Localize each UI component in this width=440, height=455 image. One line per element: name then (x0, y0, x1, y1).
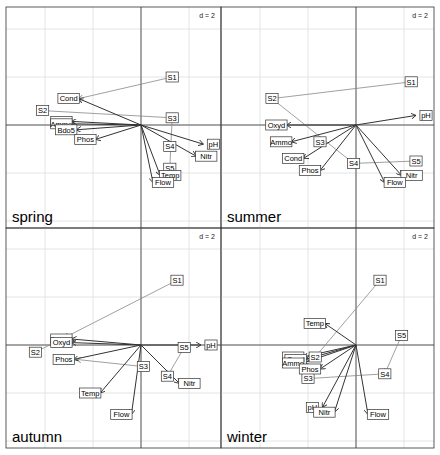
biplot-figure: S1S2S3S4S5CondOxydAmmoBdo5PhospHNitrTemp… (0, 0, 440, 455)
panel-spring: S1S2S3S4S5CondOxydAmmoBdo5PhospHNitrTemp… (6, 7, 221, 228)
variable-label-phos: Phos (55, 355, 72, 364)
site-arrows (308, 280, 402, 378)
variable-label-flow: Flow (370, 410, 386, 419)
site-label-s3: S3 (303, 374, 312, 383)
grid-lines (6, 7, 221, 228)
variable-label-temp: Temp (306, 319, 324, 328)
variable-label-nitr: Nitr (200, 152, 212, 161)
site-label-s4: S4 (163, 372, 172, 381)
variable-label-cond: Cond (60, 94, 78, 103)
season-label: spring (12, 208, 53, 225)
site-label-s2: S2 (311, 353, 320, 362)
site-label-s2: S2 (38, 106, 47, 115)
site-label-s1: S1 (168, 73, 177, 82)
variable-label-bdo5: Bdo5 (57, 126, 75, 135)
variable-label-phos: Phos (301, 365, 318, 374)
variable-label-nitr: Nitr (184, 379, 196, 388)
scale-label: d = 2 (199, 233, 215, 240)
site-label-s2: S2 (31, 348, 40, 357)
site-label-s5: S5 (180, 343, 189, 352)
variable-label-nitr: Nitr (319, 408, 331, 417)
site-label-s4: S4 (165, 142, 174, 151)
panel-autumn: S1S2S3S4S5AmmoOxydPhospHNitrTempFlowd = … (6, 228, 221, 448)
variable-label-flow: Flow (113, 410, 129, 419)
season-label: autumn (12, 428, 62, 445)
site-label-s3: S3 (168, 114, 177, 123)
site-label-s5: S5 (411, 157, 420, 166)
variable-label-nitr: Nitr (406, 171, 418, 180)
labels: S1S2S3S4S5OxydAmmoCondPhospHNitrFlow (266, 77, 432, 188)
site-label-s1: S1 (407, 78, 416, 87)
site-label-s2: S2 (267, 94, 276, 103)
variable-label-oxyd: Oxyd (53, 338, 71, 347)
site-label-s5: S5 (397, 331, 406, 340)
variable-label-flow: Flow (155, 178, 171, 187)
site-label-s4: S4 (380, 370, 389, 379)
variable-label-cond: Cond (284, 154, 302, 163)
site-label-s4: S4 (349, 159, 358, 168)
season-label: summer (227, 208, 281, 225)
variable-label-ammo: Ammo (270, 138, 292, 147)
panel-winter: S1S2S3S4S5TempOxydCondAmmoPhospHNitrFlow… (221, 228, 434, 448)
scale-label: d = 2 (412, 233, 428, 240)
variable-label-ph: pH (209, 140, 219, 149)
site-label-s3: S3 (315, 138, 324, 147)
season-label: winter (226, 428, 267, 445)
scale-label: d = 2 (412, 12, 428, 19)
site-label-s3: S3 (139, 362, 148, 371)
scale-label: d = 2 (199, 12, 215, 19)
labels: S1S2S3S4S5CondOxydAmmoBdo5PhospHNitrTemp… (37, 72, 220, 188)
variable-label-oxyd: Oxyd (268, 121, 286, 130)
variable-label-temp: Temp (81, 389, 99, 398)
variable-label-ph: pH (421, 111, 431, 120)
variable-label-phos: Phos (301, 166, 318, 175)
site-arrows (272, 82, 416, 164)
variable-label-ph: pH (206, 341, 216, 350)
variable-label-phos: Phos (77, 135, 94, 144)
variable-label-flow: Flow (387, 178, 403, 187)
site-label-s1: S1 (375, 276, 384, 285)
panel-summer: S1S2S3S4S5OxydAmmoCondPhospHNitrFlowd = … (221, 7, 434, 228)
site-label-s1: S1 (172, 276, 181, 285)
